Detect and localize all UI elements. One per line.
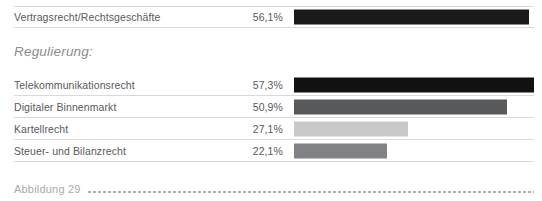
table-row: Steuer- und Bilanzrecht 22,1% (14, 140, 534, 162)
bar (294, 100, 507, 115)
value-label: 22,1% (219, 145, 283, 157)
figure-caption-text: Abbildung 29 (14, 183, 81, 195)
table-row: Telekommunikationsrecht 57,3% (14, 74, 534, 96)
table-row: Vertragsrecht/Rechtsgeschäfte 56,1% (14, 6, 534, 28)
bar (294, 10, 529, 25)
row-divider-bottom (14, 161, 534, 162)
category-label: Digitaler Binnenmarkt (14, 101, 116, 113)
value-label: 27,1% (219, 123, 283, 135)
bar (294, 122, 408, 137)
bar-track (294, 100, 534, 115)
value-label: 57,3% (219, 79, 283, 91)
row-divider-bottom (14, 27, 534, 28)
table-row: Kartellrecht 27,1% (14, 118, 534, 140)
value-label: 50,9% (219, 101, 283, 113)
figure-caption: Abbildung 29 (14, 182, 534, 196)
row-divider-top (14, 6, 534, 7)
category-label: Kartellrecht (14, 123, 68, 135)
value-label: 56,1% (219, 11, 283, 23)
bar-track (294, 10, 534, 25)
bar (294, 78, 534, 93)
category-label: Vertragsrecht/Rechtsgeschäfte (14, 11, 160, 23)
figure-bar-chart: Vertragsrecht/Rechtsgeschäfte 56,1% Regu… (0, 0, 542, 201)
bar-track (294, 78, 534, 93)
section-heading: Regulierung: (14, 44, 93, 59)
table-row: Digitaler Binnenmarkt 50,9% (14, 96, 534, 118)
bar-track (294, 122, 534, 137)
bar (294, 144, 387, 159)
category-label: Telekommunikationsrecht (14, 79, 135, 91)
bar-track (294, 144, 534, 159)
caption-dotted-leader (87, 190, 534, 194)
category-label: Steuer- und Bilanzrecht (14, 145, 126, 157)
